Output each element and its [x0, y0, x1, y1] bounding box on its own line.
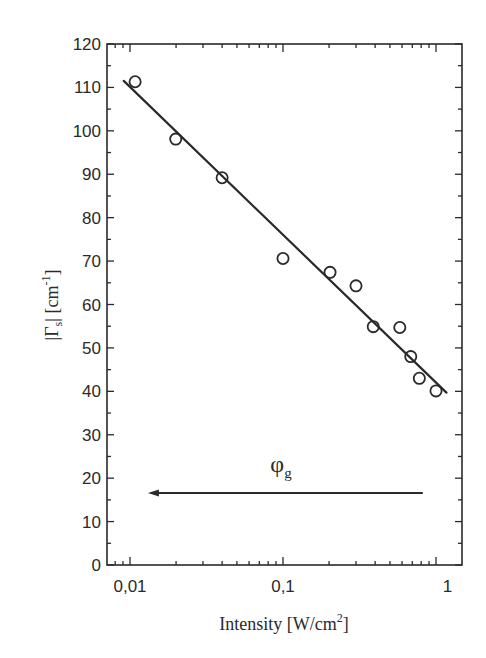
plot-frame [107, 44, 462, 565]
y-tick-label: 50 [82, 339, 101, 358]
y-tick-label: 40 [82, 382, 101, 401]
x-tick-label: 0,1 [271, 577, 295, 596]
x-tick-label: 0,01 [113, 577, 146, 596]
arrow-head-icon [148, 489, 159, 496]
data-point-circle [430, 385, 441, 396]
y-tick-label: 110 [74, 78, 101, 97]
y-tick-label: 70 [82, 252, 101, 271]
y-tick-label: 100 [73, 122, 101, 141]
axis-ticks [107, 44, 462, 565]
y-tick-label: 30 [82, 426, 101, 445]
y-tick-label: 20 [82, 469, 101, 488]
y-tick-label: 60 [82, 296, 101, 315]
data-point-circle [170, 133, 181, 144]
y-tick-label: 80 [82, 209, 101, 228]
x-tick-labels: 0,010,11 [113, 577, 452, 596]
y-tick-label: 120 [73, 35, 101, 54]
y-tick-label: 10 [82, 513, 101, 532]
fit-line [124, 81, 447, 393]
y-tick-label: 0 [92, 556, 101, 575]
data-point-circle [405, 351, 416, 362]
x-axis-title: Intensity [W/cm2] [219, 611, 348, 634]
y-tick-labels: 0102030405060708090100110120 [73, 35, 101, 575]
data-point-circle [217, 172, 228, 183]
data-point-circle [414, 373, 425, 384]
data-point-circle [277, 253, 288, 264]
phi-g-arrow: φg [148, 451, 423, 497]
chart: 0102030405060708090100110120 0,010,11 φg… [0, 0, 486, 658]
data-point-circle [350, 280, 361, 291]
data-point-circle [130, 76, 141, 87]
phi-g-label: φg [270, 451, 292, 481]
data-point-circle [324, 267, 335, 278]
plot-border [107, 44, 462, 565]
fit-line-path [124, 81, 447, 393]
x-tick-label: 1 [443, 577, 452, 596]
y-tick-label: 90 [82, 165, 101, 184]
y-axis-title: |Γs| [cm-1] [39, 270, 65, 341]
data-point-circle [394, 322, 405, 333]
